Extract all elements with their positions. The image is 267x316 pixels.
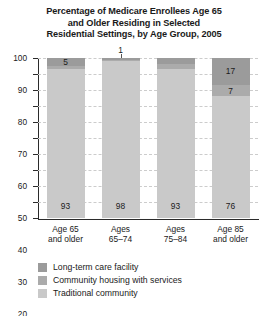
chart-legend: Long-term care facilityCommunity housing… bbox=[38, 261, 263, 300]
chart-title: Percentage of Medicare Enrollees Age 65 … bbox=[14, 6, 254, 41]
y-tick-label: 100 bbox=[13, 54, 27, 62]
bar-segment[interactable]: 98 bbox=[102, 61, 140, 218]
x-axis-label: Ages75–84 bbox=[147, 224, 205, 245]
bar-value-label: 93 bbox=[61, 202, 70, 210]
y-tick-label: 90 bbox=[18, 86, 27, 94]
x-axis-label-line: and older bbox=[202, 234, 260, 244]
legend-label: Community housing with services bbox=[53, 276, 182, 285]
y-tick: 0 bbox=[33, 218, 38, 219]
x-axis-label-line: Ages bbox=[92, 224, 150, 234]
bar-segment[interactable]: 5 bbox=[47, 58, 85, 66]
x-axis-label-line: 65–74 bbox=[92, 234, 150, 244]
x-axis-label-line: Age 85 bbox=[202, 224, 260, 234]
bar-segment[interactable]: 93 bbox=[47, 69, 85, 218]
legend-item[interactable]: Long-term care facility bbox=[38, 261, 263, 274]
chart-title-line-2: and Older Residing in Selected bbox=[14, 18, 254, 30]
y-tick-label: 30 bbox=[18, 278, 27, 286]
bar-segment[interactable]: 7 bbox=[212, 85, 250, 96]
bar-segment[interactable]: 1 bbox=[102, 60, 140, 62]
legend-item[interactable]: Community housing with services bbox=[38, 274, 263, 287]
legend-swatch bbox=[38, 263, 47, 272]
bar-segment[interactable]: 3 bbox=[157, 64, 195, 69]
bar-value-label: 17 bbox=[226, 67, 235, 75]
legend-label: Traditional community bbox=[53, 289, 138, 298]
bar-segment[interactable]: 1 bbox=[102, 58, 140, 60]
bars-layer: 932519811933476717 bbox=[38, 58, 258, 218]
y-tick-label: 40 bbox=[18, 246, 27, 254]
plot-area: 0102030405060708090100 93251981193347671… bbox=[38, 58, 258, 218]
x-axis-label: Age 85and older bbox=[202, 224, 260, 245]
chart-title-line-1: Percentage of Medicare Enrollees Age 65 bbox=[14, 6, 254, 18]
bar-value-label: 5 bbox=[63, 58, 68, 66]
legend-swatch bbox=[38, 289, 47, 298]
y-tick-label: 50 bbox=[18, 214, 27, 222]
y-tick-label: 80 bbox=[18, 118, 27, 126]
legend-swatch bbox=[38, 276, 47, 285]
bar-value-label: 93 bbox=[171, 202, 180, 210]
chart-container: Percentage of Medicare Enrollees Age 65 … bbox=[0, 0, 267, 316]
bar-segment[interactable]: 76 bbox=[212, 96, 250, 218]
x-axis-label-line: 75–84 bbox=[147, 234, 205, 244]
x-axis-label-line: Age 65 bbox=[37, 224, 95, 234]
bar-value-label: 76 bbox=[226, 202, 235, 210]
bar-segment[interactable]: 93 bbox=[157, 69, 195, 218]
bar-value-label: 98 bbox=[116, 202, 125, 210]
bar-segment[interactable]: 4 bbox=[157, 58, 195, 64]
x-axis-label: Ages65–74 bbox=[92, 224, 150, 245]
y-tick-label: 20 bbox=[18, 310, 27, 316]
x-axis-label: Age 65and older bbox=[37, 224, 95, 245]
bar-segment[interactable]: 17 bbox=[212, 58, 250, 85]
x-axis-label-line: and older bbox=[37, 234, 95, 244]
x-axis-line bbox=[38, 219, 259, 220]
x-axis-label-line: Ages bbox=[147, 224, 205, 234]
chart-title-line-3: Residential Settings, by Age Group, 2005 bbox=[14, 29, 254, 41]
legend-item[interactable]: Traditional community bbox=[38, 287, 263, 300]
y-tick-label: 60 bbox=[18, 182, 27, 190]
bar-value-callout: 1 bbox=[102, 46, 140, 54]
y-tick-label: 70 bbox=[18, 150, 27, 158]
bar-value-label: 7 bbox=[228, 87, 233, 95]
legend-label: Long-term care facility bbox=[53, 263, 138, 272]
